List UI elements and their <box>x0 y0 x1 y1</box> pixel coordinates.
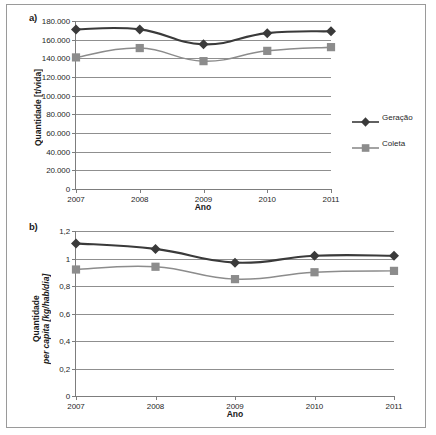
panel-label-b: b) <box>29 221 38 232</box>
data-point-geração-2007 <box>71 238 81 248</box>
data-point-coleta-2011 <box>327 43 335 51</box>
x-tick-mark <box>156 396 157 400</box>
legend-a: Geração Coleta <box>352 109 422 161</box>
x-tick-label: 2011 <box>323 195 340 204</box>
y-tick-label: 80.000 <box>46 110 70 119</box>
chart-panel-a: a) 020.00040.00060.00080.000100.000120.0… <box>7 5 427 213</box>
data-point-geração-2009 <box>199 39 209 49</box>
series-plot-a <box>76 21 331 189</box>
plot-area-a: 020.00040.00060.00080.000100.000120.0001… <box>75 21 331 190</box>
x-tick-label: 2007 <box>67 195 84 204</box>
x-axis-title-a: Ano <box>195 202 212 212</box>
y-tick-label: 0,6 <box>59 309 70 318</box>
data-point-geração-2010 <box>310 251 320 261</box>
data-point-coleta-2008 <box>136 44 144 52</box>
data-point-coleta-2008 <box>151 263 159 271</box>
data-point-geração-2009 <box>230 258 240 268</box>
x-tick-label: 2011 <box>386 402 403 411</box>
data-point-coleta-2009 <box>231 275 239 283</box>
y-tick-label: 100.000 <box>42 91 70 100</box>
y-tick-label: 0 <box>66 392 70 401</box>
x-tick-mark <box>204 189 205 193</box>
y-tick-label: 160.000 <box>42 35 70 44</box>
y-tick-label: 140.000 <box>42 54 70 63</box>
y-tick-label: 0,2 <box>59 364 70 373</box>
series-plot-b <box>76 231 394 396</box>
y-tick-label: 60.000 <box>46 129 70 138</box>
data-point-coleta-2007 <box>72 265 80 273</box>
x-tick-mark <box>315 396 316 400</box>
plot-area-b: 00,20,40,60,811,2 20072008200920102011 <box>75 231 394 397</box>
y-tick-label: 1 <box>66 254 70 263</box>
y-axis-title-b-line2: per capita [kg/hab/dia] <box>41 267 51 371</box>
legend-item-coleta: Coleta <box>352 135 422 161</box>
y-axis-title-a: Quantidade [t/vida] <box>33 53 43 163</box>
data-point-geração-2008 <box>135 24 145 34</box>
legend-marker-diamond-icon <box>352 116 379 128</box>
x-tick-mark <box>267 189 268 193</box>
data-point-coleta-2010 <box>310 268 318 276</box>
legend-label-coleta: Coleta <box>382 139 405 148</box>
x-tick-label: 2008 <box>131 195 148 204</box>
figure-frame: a) 020.00040.00060.00080.000100.000120.0… <box>6 4 426 428</box>
y-tick-label: 0,4 <box>59 337 70 346</box>
data-point-geração-2007 <box>71 24 81 34</box>
y-tick-label: 0 <box>66 185 70 194</box>
y-tick-label: 20.000 <box>46 166 70 175</box>
x-tick-label: 2010 <box>306 402 323 411</box>
y-tick-label: 0,8 <box>59 282 70 291</box>
data-point-coleta-2011 <box>390 267 398 275</box>
x-axis-title-b: Ano <box>227 409 244 419</box>
x-tick-mark <box>140 189 141 193</box>
data-point-geração-2011 <box>326 26 336 36</box>
panel-label-a: a) <box>29 12 37 23</box>
x-tick-mark <box>235 396 236 400</box>
legend-label-geracao: Geração <box>382 113 413 122</box>
x-tick-mark <box>394 396 395 400</box>
x-tick-label: 2008 <box>147 402 164 411</box>
data-point-coleta-2009 <box>199 57 207 65</box>
legend-marker-square-icon <box>352 142 379 154</box>
x-tick-label: 2007 <box>67 402 84 411</box>
data-point-coleta-2007 <box>72 53 80 61</box>
y-tick-label: 120.000 <box>42 73 70 82</box>
y-axis-title-b-line1: Quantidade <box>31 267 41 371</box>
chart-panel-b: b) 00,20,40,60,811,2 2007200820092010201… <box>7 213 427 427</box>
x-tick-mark <box>331 189 332 193</box>
data-point-coleta-2010 <box>263 47 271 55</box>
legend-item-geracao: Geração <box>352 109 422 135</box>
data-point-geração-2011 <box>389 251 399 261</box>
x-tick-label: 2010 <box>259 195 276 204</box>
y-tick-label: 40.000 <box>46 147 70 156</box>
data-point-geração-2010 <box>262 28 272 38</box>
x-tick-mark <box>76 396 77 400</box>
x-tick-mark <box>76 189 77 193</box>
data-point-geração-2008 <box>151 244 161 254</box>
y-tick-label: 180.000 <box>42 17 70 26</box>
y-tick-label: 1,2 <box>59 227 70 236</box>
